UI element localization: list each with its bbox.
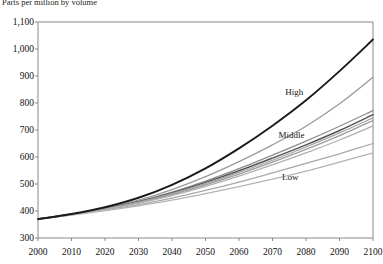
- series-line-scenario-a1: [38, 77, 373, 219]
- y-tick-label: 900: [0, 71, 34, 81]
- y-tick-label: 1,100: [0, 17, 34, 27]
- series-label-middle: Middle: [279, 130, 305, 140]
- series-label-low: Low: [282, 172, 299, 182]
- y-tick-label: 500: [0, 179, 34, 189]
- series-line-scenario-a2: [38, 111, 373, 220]
- chart-container: Parts per million by volume 300400500600…: [0, 0, 383, 264]
- series-line-scenario-c1: [38, 121, 373, 220]
- line-chart-plot: [0, 0, 383, 264]
- y-tick-label: 300: [0, 233, 34, 243]
- y-tick-label: 1,000: [0, 44, 34, 54]
- y-tick-label: 700: [0, 125, 34, 135]
- y-tick-label: 600: [0, 152, 34, 162]
- series-line-high: [38, 40, 373, 220]
- plot-frame: [38, 22, 373, 238]
- y-tick-label: 800: [0, 98, 34, 108]
- x-tick-label: 2100: [353, 247, 383, 257]
- series-label-high: High: [285, 87, 303, 97]
- y-tick-label: 400: [0, 206, 34, 216]
